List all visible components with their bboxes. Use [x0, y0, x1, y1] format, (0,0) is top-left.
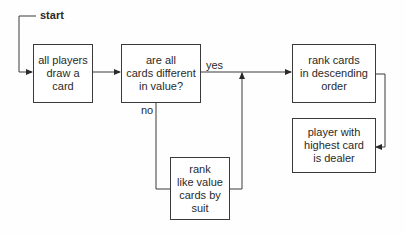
no-label: no: [141, 104, 153, 116]
node-cards-different-decision: are all cards different in value?: [121, 44, 201, 103]
flowchart: start all players draw a card are all ca…: [0, 0, 406, 234]
node-all-players-draw: all players draw a card: [33, 44, 93, 103]
yes-label: yes: [206, 59, 223, 71]
node-rank-descending: rank cards in descending order: [292, 44, 376, 103]
node-rank-by-suit: rank like value cards by suit: [170, 157, 230, 220]
node-dealer: player with highest card is dealer: [292, 118, 376, 173]
start-label: start: [40, 9, 64, 21]
